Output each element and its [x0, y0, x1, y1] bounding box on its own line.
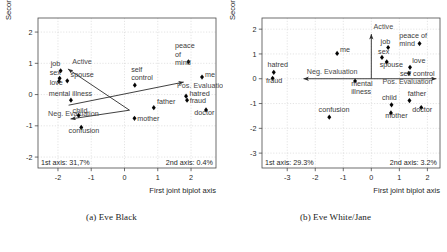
x-tick-label: 1	[397, 173, 401, 182]
axis2-variance-note: 2nd axis: 0.4%	[166, 158, 214, 167]
point-label: doctor	[412, 105, 433, 114]
point-label: father	[157, 97, 176, 106]
x-tick-label: -3	[284, 173, 290, 182]
x-axis-title: First joint biplot axis	[373, 186, 440, 195]
point-label: hatred	[268, 60, 288, 69]
point-label: fraud	[266, 76, 282, 85]
x-tick-label: -1	[340, 173, 346, 182]
vector-label: Neg. Evaluation	[307, 67, 358, 76]
x-tick-label: 2	[189, 173, 193, 182]
point-label: sex	[50, 68, 62, 77]
point-label: confusion	[69, 126, 100, 135]
axis2-variance-note: 2nd axis: 3.2%	[390, 158, 438, 167]
x-tick-label: -2	[312, 173, 318, 182]
point-label: doctor	[194, 108, 215, 117]
scatter-plot-b: -3-2-1012210-1-2-3ActivePos. EvaluationN…	[224, 0, 447, 210]
point-label: spouse	[71, 70, 94, 79]
y-tick-label: -1	[26, 121, 32, 130]
scatter-plot-a: -2-1012210-1-2ActivePos. EvaluationNeg. …	[0, 0, 223, 210]
vector-label: Active	[374, 22, 394, 31]
vector-label: Pos. Evaluation	[383, 77, 433, 86]
point-label: job	[50, 59, 61, 68]
axis1-variance-note: 1st axis: 29.3%	[265, 158, 314, 167]
x-tick-label: -2	[55, 173, 61, 182]
point-label: child	[382, 93, 397, 102]
point-label: mental illness	[49, 89, 93, 98]
x-tick-label: 2	[425, 173, 429, 182]
point-label: fraud	[190, 96, 206, 105]
axis1-variance-note: 1st axis: 31,7%	[41, 158, 90, 167]
caption-panel-b: (b) Eve White/Jane	[224, 212, 447, 222]
panel-eve-black: -2-1012210-1-2ActivePos. EvaluationNeg. …	[0, 0, 223, 210]
point-label: me	[205, 70, 215, 79]
point-label: mentalillness	[351, 79, 373, 96]
point-label: child	[73, 106, 88, 115]
y-tick-label: -2	[250, 124, 256, 133]
y-axis-title: Second joint biplot axis	[4, 0, 13, 20]
y-tick-label: 0	[253, 74, 257, 83]
point-label: mother	[385, 111, 408, 120]
y-axis-title: Second joint biplot axis	[228, 0, 237, 20]
point-label: me	[340, 45, 350, 54]
y-tick-label: -2	[26, 153, 32, 162]
point-label: job	[380, 37, 391, 46]
panel-eve-white-jane: -3-2-1012210-1-2-3ActivePos. EvaluationN…	[224, 0, 447, 210]
y-tick-label: -3	[250, 149, 256, 158]
y-tick-label: 1	[253, 50, 257, 59]
y-tick-label: 2	[253, 25, 257, 34]
y-tick-label: 0	[29, 90, 33, 99]
y-tick-label: -1	[250, 99, 256, 108]
x-tick-label: 0	[369, 173, 373, 182]
x-tick-label: -1	[88, 173, 94, 182]
point-label: self control	[400, 69, 435, 78]
biplot-figure: -2-1012210-1-2ActivePos. EvaluationNeg. …	[0, 0, 447, 252]
point-label: selfcontrol	[131, 65, 153, 82]
point-label: confusion	[319, 105, 350, 114]
point-label: mother	[137, 114, 160, 123]
point-label: peaceofmind	[175, 41, 195, 66]
point-label: sex	[378, 47, 390, 56]
point-label: love	[50, 78, 63, 87]
x-tick-label: 0	[123, 173, 127, 182]
point-label: peace ofmind	[399, 31, 427, 48]
vector-label: Active	[72, 57, 92, 66]
point-label: father	[408, 89, 427, 98]
y-tick-label: 2	[29, 28, 33, 37]
x-tick-label: 1	[156, 173, 160, 182]
caption-panel-a: (a) Eve Black	[0, 212, 223, 222]
x-axis-title: First joint biplot axis	[149, 186, 216, 195]
y-tick-label: 1	[29, 59, 33, 68]
point-label: love	[412, 56, 425, 65]
